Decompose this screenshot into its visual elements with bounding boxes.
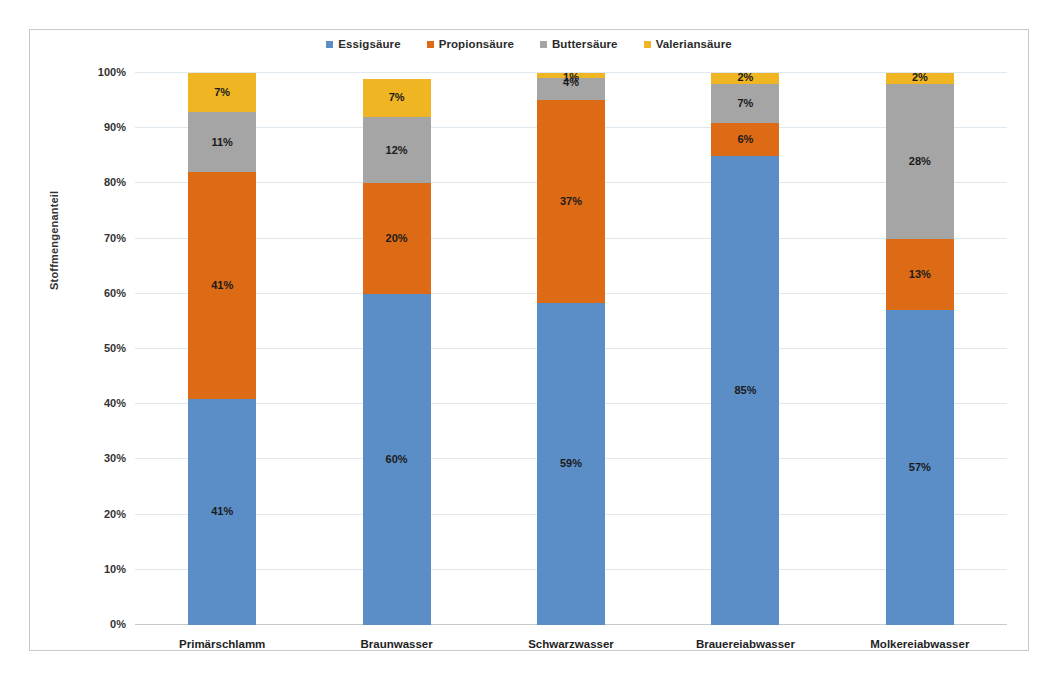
- bar-segment-value-label: 2%: [737, 72, 753, 83]
- bar-segment-value-label: 6%: [737, 134, 753, 145]
- y-axis-tick-label: 0%: [110, 618, 126, 630]
- bar-segment-value-label: 57%: [909, 462, 931, 473]
- bar-segment-essigsäure[interactable]: 41%: [188, 399, 256, 625]
- bar-segment-propionsäure[interactable]: 41%: [188, 172, 256, 398]
- y-axis-tick-label: 100%: [98, 66, 126, 78]
- bar-segment-valeriansäure[interactable]: 2%: [886, 73, 954, 84]
- legend-swatch-icon: [644, 41, 651, 48]
- bar-segment-value-label: 11%: [211, 137, 232, 148]
- stacked-bar[interactable]: 59%37%4%1%: [537, 73, 605, 625]
- bar-segment-valeriansäure[interactable]: 1%: [537, 73, 605, 78]
- bar-segment-value-label: 37%: [560, 196, 582, 207]
- bar-group-3: 85%6%7%2%Brauereiabwasser: [658, 73, 832, 625]
- y-axis-tick-label: 90%: [104, 121, 126, 133]
- bar-segment-essigsäure[interactable]: 57%: [886, 310, 954, 625]
- bar-segment-value-label: 7%: [737, 98, 753, 109]
- bar-segment-propionsäure[interactable]: 13%: [886, 239, 954, 311]
- bar-segment-value-label: 41%: [211, 506, 233, 517]
- legend-item-label: Essigsäure: [338, 38, 400, 50]
- bar-segment-value-label: 20%: [386, 233, 408, 244]
- y-axis-tick-label: 70%: [104, 232, 126, 244]
- bar-segment-value-label: 2%: [912, 72, 928, 83]
- stacked-bar[interactable]: 60%20%12%7%: [363, 73, 431, 625]
- bar-segment-value-label: 85%: [734, 385, 756, 396]
- bar-segment-valeriansäure[interactable]: 2%: [711, 73, 779, 84]
- legend-swatch-icon: [540, 41, 547, 48]
- stacked-bar[interactable]: 57%13%28%2%: [886, 73, 954, 625]
- bar-segment-value-label: 41%: [211, 280, 233, 291]
- chart-container: EssigsäurePropionsäureButtersäureValeria…: [29, 29, 1029, 651]
- bar-segment-value-label: 7%: [214, 87, 230, 98]
- x-axis-category-label: Primärschlamm: [179, 638, 265, 650]
- bar-segment-propionsäure[interactable]: 6%: [711, 123, 779, 156]
- bar-segment-valeriansäure[interactable]: 7%: [363, 79, 431, 118]
- plot-area: 0%10%20%30%40%50%60%70%80%90%100% 41%41%…: [135, 73, 1007, 625]
- y-axis-tick-label: 60%: [104, 287, 126, 299]
- x-axis-category-label: Schwarzwasser: [528, 638, 614, 650]
- bar-segment-buttersäure[interactable]: 11%: [188, 112, 256, 173]
- bar-segment-value-label: 1%: [563, 72, 579, 83]
- bar-segment-buttersäure[interactable]: 28%: [886, 84, 954, 239]
- bar-group-4: 57%13%28%2%Molkereiabwasser: [833, 73, 1007, 625]
- legend-item-label: Propionsäure: [439, 38, 514, 50]
- bar-group-0: 41%41%11%7%Primärschlamm: [135, 73, 309, 625]
- bar-segment-essigsäure[interactable]: 85%: [711, 156, 779, 625]
- bar-segment-buttersäure[interactable]: 12%: [363, 117, 431, 183]
- bar-group-1: 60%20%12%7%Braunwasser: [309, 73, 483, 625]
- legend-item-label: Buttersäure: [552, 38, 618, 50]
- bar-segment-propionsäure[interactable]: 37%: [537, 100, 605, 302]
- y-axis-tick-label: 80%: [104, 176, 126, 188]
- chart-legend: EssigsäurePropionsäureButtersäureValeria…: [30, 38, 1028, 50]
- y-axis-tick-label: 40%: [104, 397, 126, 409]
- legend-item-label: Valeriansäure: [656, 38, 732, 50]
- bar-segment-buttersäure[interactable]: 7%: [711, 84, 779, 123]
- bar-segment-essigsäure[interactable]: 59%: [537, 303, 605, 625]
- bar-segment-value-label: 28%: [909, 156, 931, 167]
- bar-segment-value-label: 59%: [560, 458, 582, 469]
- bar-group-2: 59%37%4%1%Schwarzwasser: [484, 73, 658, 625]
- legend-swatch-icon: [326, 41, 333, 48]
- bar-segment-value-label: 60%: [386, 454, 408, 465]
- x-axis-category-label: Molkereiabwasser: [870, 638, 969, 650]
- x-axis-category-label: Brauereiabwasser: [696, 638, 795, 650]
- bar-segment-value-label: 13%: [909, 269, 931, 280]
- bar-segment-valeriansäure[interactable]: 7%: [188, 73, 256, 112]
- y-axis-tick-label: 10%: [104, 563, 126, 575]
- bar-segment-value-label: 12%: [386, 145, 408, 156]
- bar-segment-essigsäure[interactable]: 60%: [363, 294, 431, 625]
- y-axis-tick-label: 30%: [104, 452, 126, 464]
- legend-item-1[interactable]: Propionsäure: [427, 38, 514, 50]
- stacked-bar[interactable]: 85%6%7%2%: [711, 73, 779, 625]
- y-axis-tick-label: 50%: [104, 342, 126, 354]
- y-axis-tick-label: 20%: [104, 508, 126, 520]
- bar-segment-value-label: 7%: [389, 92, 405, 103]
- y-axis-title: Stoffmengenanteil: [48, 191, 60, 290]
- legend-item-2[interactable]: Buttersäure: [540, 38, 618, 50]
- bar-segment-propionsäure[interactable]: 20%: [363, 183, 431, 293]
- legend-item-3[interactable]: Valeriansäure: [644, 38, 732, 50]
- legend-swatch-icon: [427, 41, 434, 48]
- x-axis-category-label: Braunwasser: [360, 638, 432, 650]
- legend-item-0[interactable]: Essigsäure: [326, 38, 400, 50]
- stacked-bar[interactable]: 41%41%11%7%: [188, 73, 256, 625]
- bar-series-group: 41%41%11%7%Primärschlamm60%20%12%7%Braun…: [135, 73, 1007, 625]
